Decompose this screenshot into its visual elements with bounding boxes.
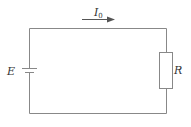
circuit-diagram: I0 E R: [0, 0, 191, 127]
wires: [30, 29, 167, 114]
resistor-icon: [160, 53, 173, 89]
source-label: E: [6, 65, 15, 78]
resistor-label: R: [173, 64, 182, 77]
battery-icon: [22, 69, 37, 73]
current-label: I0: [93, 6, 103, 20]
